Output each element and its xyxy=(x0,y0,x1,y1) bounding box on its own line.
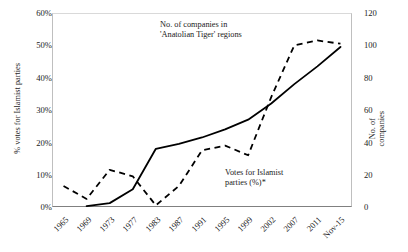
votes-annotation: Votes for Islamist parties (%)* xyxy=(225,168,283,188)
y-tick-left-60: 60% xyxy=(0,8,52,18)
companies-annotation-line2: 'Anatolian Tiger' regions xyxy=(160,30,242,40)
y-axis-right-title: No. of companies xyxy=(369,84,386,174)
y-tick-left-0: 0% xyxy=(0,202,52,212)
y-tick-right-20: 20 xyxy=(364,170,404,180)
y-tick-right-80: 80 xyxy=(364,73,404,83)
y-tick-right-40: 40 xyxy=(364,138,404,148)
y-tick-left-40: 40% xyxy=(0,73,52,83)
chart-container: % votes for Islamist parties No. of comp… xyxy=(0,0,408,252)
series-companies-line xyxy=(64,40,341,205)
y-tick-left-10: 10% xyxy=(0,170,52,180)
y-tick-left-30: 30% xyxy=(0,105,52,115)
y-axis-right-title-line2: companies xyxy=(378,84,387,174)
y-tick-left-50: 50% xyxy=(0,40,52,50)
y-tick-right-0: 0 xyxy=(364,202,404,212)
companies-annotation: No. of companies in 'Anatolian Tiger' re… xyxy=(160,20,242,40)
y-tick-right-60: 60 xyxy=(364,105,404,115)
votes-annotation-line2: parties (%)* xyxy=(225,178,283,188)
chart-plot-svg xyxy=(52,13,352,207)
y-tick-right-100: 100 xyxy=(364,40,404,50)
y-tick-left-20: 20% xyxy=(0,138,52,148)
votes-annotation-line1: Votes for Islamist xyxy=(225,168,283,178)
y-tick-right-120: 120 xyxy=(364,8,404,18)
series-votes-islamist-line xyxy=(87,47,341,206)
companies-annotation-line1: No. of companies in xyxy=(160,20,242,30)
